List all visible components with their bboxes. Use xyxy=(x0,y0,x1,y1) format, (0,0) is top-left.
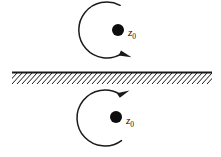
lower-vortex-dot xyxy=(110,111,122,123)
lower-vortex-group: z0 xyxy=(77,90,134,146)
upper-arc-arrowhead-icon xyxy=(119,51,132,58)
wall-hatch-group xyxy=(2,73,221,84)
vortex-diagram-svg: z0 xyxy=(0,0,221,157)
lower-vortex-label: z0 xyxy=(125,114,134,129)
upper-vortex-group: z0 xyxy=(79,2,136,58)
upper-vortex-dot xyxy=(112,24,124,36)
lower-arc-arrowhead-icon xyxy=(117,90,130,97)
upper-vortex-label-subscript: 0 xyxy=(132,32,136,41)
wall-boundary-group xyxy=(2,73,221,85)
figure-canvas: z0 xyxy=(0,0,221,157)
lower-vortex-label-subscript: 0 xyxy=(130,120,134,129)
upper-vortex-label: z0 xyxy=(127,26,136,41)
